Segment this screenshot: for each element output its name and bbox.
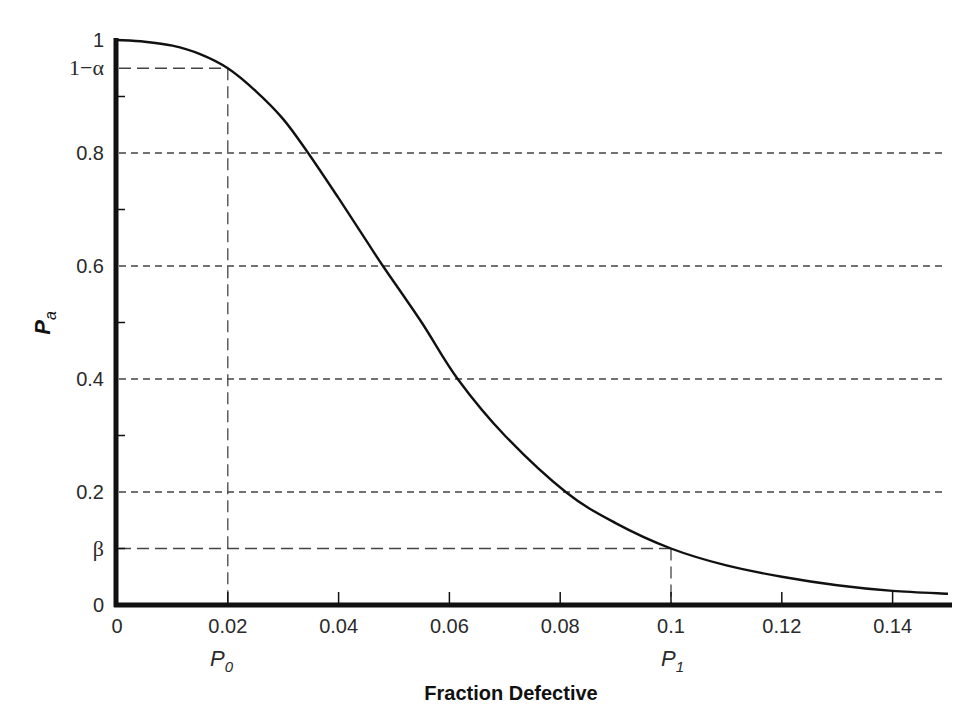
- x-tick-label: 0.1: [657, 615, 685, 637]
- y-tick-label: β: [93, 536, 104, 561]
- p1-label: P1: [661, 646, 684, 675]
- y-tick-labels: 11−α0.80.60.40.2β0: [69, 29, 104, 616]
- y-tick-label: 0.6: [76, 255, 104, 277]
- reference-lines: [119, 68, 671, 603]
- x-tick-label: 0: [111, 615, 122, 637]
- y-tick-label: 1: [93, 29, 104, 51]
- horizontal-gridlines: [119, 153, 945, 492]
- y-tick-label: 0: [93, 594, 104, 616]
- oc-curve-line: [117, 40, 948, 594]
- axis-ticks: [118, 97, 893, 604]
- svg-text:Pa: Pa: [30, 311, 59, 335]
- y-tick-label: 0.4: [76, 368, 104, 390]
- x-tick-label: 0.12: [762, 615, 801, 637]
- y-tick-label: 0.2: [76, 481, 104, 503]
- y-tick-label: 1−α: [69, 55, 104, 80]
- oc-curve-chart: 11−α0.80.60.40.2β0 00.020.040.060.080.10…: [0, 0, 980, 721]
- y-axis-title: Pa: [30, 311, 59, 335]
- x-tick-label: 0.04: [319, 615, 358, 637]
- p0-label: P0: [210, 646, 234, 675]
- x-axis-title: Fraction Defective: [424, 682, 597, 704]
- x-tick-label: 0.02: [208, 615, 247, 637]
- x-tick-label: 0.14: [873, 615, 912, 637]
- x-tick-label: 0.08: [541, 615, 580, 637]
- x-tick-labels: 00.020.040.060.080.10.120.14: [111, 615, 912, 637]
- x-tick-label: 0.06: [430, 615, 469, 637]
- y-tick-label: 0.8: [76, 142, 104, 164]
